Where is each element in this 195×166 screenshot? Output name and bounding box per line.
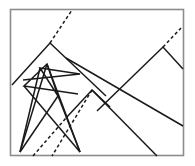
line-art-canvas <box>0 0 195 166</box>
figure-container <box>0 0 195 166</box>
